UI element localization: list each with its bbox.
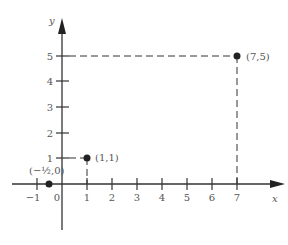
coordinate-plane: −1 0 1 2 3 4 5 6 7 1 2 3 4 5 x y (−½,0) … bbox=[0, 0, 288, 245]
y-tick-label: 1 bbox=[47, 153, 53, 164]
x-axis-arrow-icon bbox=[270, 180, 285, 188]
x-tick-label: 0 bbox=[54, 192, 60, 203]
point-label: (1,1) bbox=[95, 152, 119, 163]
y-axis-arrow-icon bbox=[58, 18, 66, 34]
y-tick-label: 2 bbox=[47, 128, 53, 139]
y-axis-label: y bbox=[48, 15, 55, 26]
x-tick-label: −1 bbox=[26, 192, 41, 203]
point-label: (−½,0) bbox=[29, 165, 65, 176]
point-neg-half-0 bbox=[46, 181, 53, 188]
x-tick-label: 3 bbox=[134, 192, 140, 203]
x-tick-label: 4 bbox=[159, 192, 165, 203]
point-1-1 bbox=[84, 155, 91, 162]
x-axis-label: x bbox=[272, 193, 278, 204]
x-tick-label: 5 bbox=[184, 192, 190, 203]
point-7-5 bbox=[234, 53, 241, 60]
x-tick-label: 7 bbox=[234, 192, 240, 203]
dashed-guides bbox=[69, 56, 237, 184]
x-tick-label: 2 bbox=[109, 192, 115, 203]
x-tick-label: 1 bbox=[84, 192, 90, 203]
y-tick-label: 4 bbox=[47, 76, 53, 87]
point-label: (7,5) bbox=[246, 51, 270, 62]
y-tick-label: 3 bbox=[47, 102, 53, 113]
y-tick-label: 5 bbox=[47, 51, 53, 62]
x-tick-label: 6 bbox=[209, 192, 215, 203]
